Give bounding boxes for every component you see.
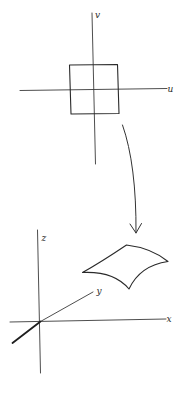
u-axis-label: u xyxy=(168,84,174,94)
uv-plane: u v xyxy=(20,10,174,164)
mapping-arrow xyxy=(123,125,142,233)
z-axis-label: z xyxy=(41,233,47,243)
parametric-surface-diagram: u v x y z xyxy=(0,0,186,397)
x-axis-label: x xyxy=(167,314,172,324)
diagram-canvas: u v x y z xyxy=(0,0,186,397)
v-axis xyxy=(92,13,96,164)
y-axis xyxy=(41,292,94,322)
v-axis-label: v xyxy=(95,10,100,20)
surface-patch xyxy=(83,245,169,289)
y-axis-near-segment xyxy=(13,322,41,344)
arrow-curve xyxy=(123,125,137,233)
xyz-space: x y z xyxy=(10,230,172,373)
x-axis xyxy=(10,319,166,322)
z-axis xyxy=(38,230,41,373)
y-axis-label: y xyxy=(96,286,103,296)
